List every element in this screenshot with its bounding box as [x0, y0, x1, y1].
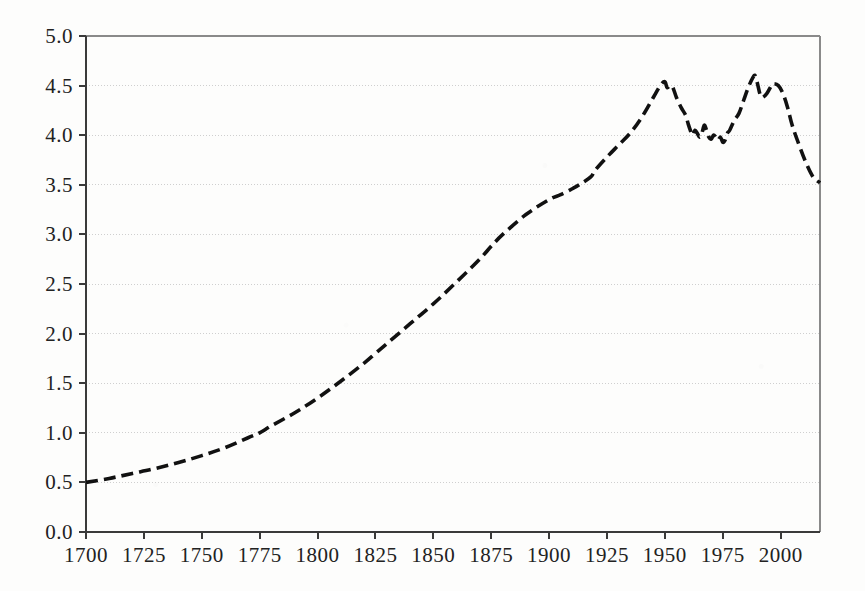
gridlines: [86, 36, 820, 482]
y-axis-tick-label: 1.0: [8, 422, 73, 443]
x-axis-tick-label: 1850: [411, 545, 455, 566]
y-axis-tick-label: 4.5: [8, 75, 73, 96]
y-axis-tick-label: 0.5: [8, 472, 73, 493]
x-axis-tick-label: 1950: [643, 545, 687, 566]
x-axis-tick-label: 1800: [296, 545, 340, 566]
y-axis-tick-label: 2.0: [8, 323, 73, 344]
line-chart-plot: [0, 0, 865, 591]
x-axis-tick-label: 1875: [469, 545, 513, 566]
y-axis-tick-label: 3.5: [8, 174, 73, 195]
x-axis-tick-label: 1750: [180, 545, 224, 566]
y-axis-tick-label: 5.0: [8, 26, 73, 47]
x-axis-tick-label: 1825: [353, 545, 397, 566]
x-axis-tick-label: 1775: [238, 545, 282, 566]
y-axis-tick-label: 1.5: [8, 373, 73, 394]
y-axis-tick-label: 3.0: [8, 224, 73, 245]
axis-ticks: [79, 36, 781, 539]
x-axis-tick-label: 1900: [527, 545, 571, 566]
x-axis-tick-label: 1725: [122, 545, 166, 566]
chart-container: 0.00.51.01.52.02.53.03.54.04.55.0 170017…: [0, 0, 865, 591]
y-axis-tick-label: 2.5: [8, 274, 73, 295]
x-axis-tick-label: 1700: [64, 545, 108, 566]
y-axis-tick-label: 4.0: [8, 125, 73, 146]
x-axis-tick-label: 1925: [585, 545, 629, 566]
x-axis-tick-label: 1975: [701, 545, 745, 566]
data-series: [86, 75, 820, 482]
y-axis-tick-label: 0.0: [8, 522, 73, 543]
x-axis-tick-label: 2000: [759, 545, 803, 566]
